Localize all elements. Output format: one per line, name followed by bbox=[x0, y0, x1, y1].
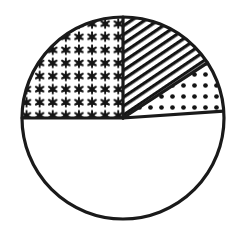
pie-slice-blank[interactable] bbox=[22, 111, 224, 219]
pie-chart-figure: Circle divided into four sectors disting… bbox=[0, 0, 244, 240]
pie-chart-svg bbox=[0, 0, 244, 240]
